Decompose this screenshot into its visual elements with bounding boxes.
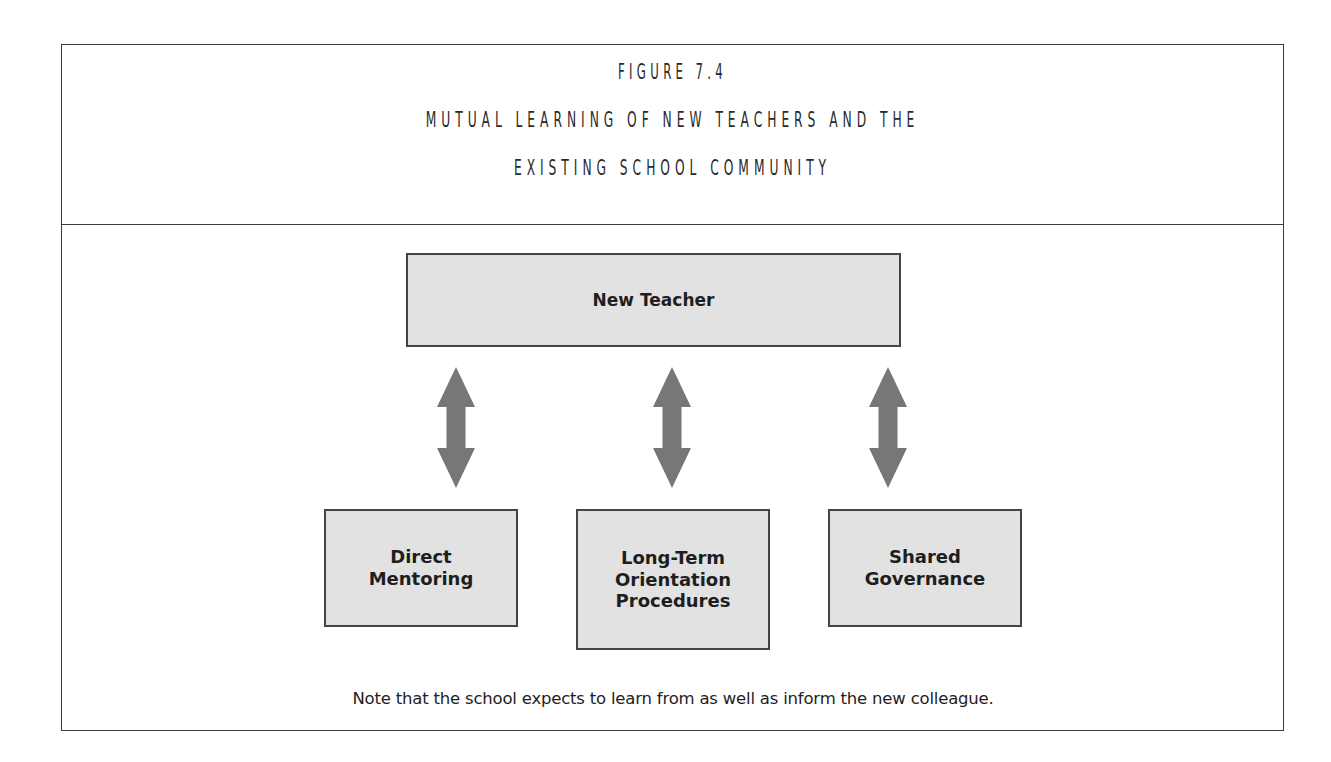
node-direct-mentoring-label: Direct Mentoring (369, 546, 474, 589)
figure-title-line-2: Existing School Community (294, 155, 1051, 180)
node-shared-governance: Shared Governance (828, 509, 1022, 627)
figure-title-line-1: Mutual Learning of New Teachers and the (294, 107, 1051, 132)
bidirectional-arrow-icon (869, 367, 907, 488)
node-long-term-orientation: Long-Term Orientation Procedures (576, 509, 770, 650)
node-new-teacher-label: New Teacher (593, 290, 715, 310)
figure-header: Figure 7.4 Mutual Learning of New Teache… (62, 45, 1283, 225)
node-new-teacher: New Teacher (406, 253, 901, 347)
bidirectional-arrow-icon (653, 367, 691, 488)
figure-number: Figure 7.4 (294, 60, 1051, 84)
figure-note: Note that the school expects to learn fr… (61, 689, 1285, 708)
node-shared-governance-label: Shared Governance (865, 546, 986, 589)
bidirectional-arrow-icon (437, 367, 475, 488)
node-long-term-orientation-label: Long-Term Orientation Procedures (615, 547, 731, 612)
node-direct-mentoring: Direct Mentoring (324, 509, 518, 627)
